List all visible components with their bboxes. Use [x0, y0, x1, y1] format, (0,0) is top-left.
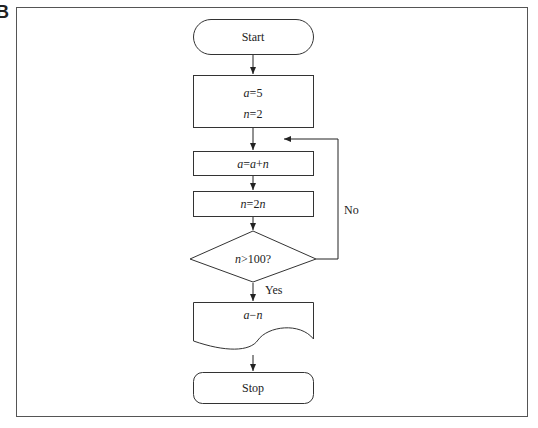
update-n-node: n=2n [194, 192, 314, 217]
svg-text:n=2n: n=2n [241, 197, 266, 211]
stop-label: Stop [242, 381, 264, 395]
start-label: Start [242, 30, 265, 44]
svg-text:a=a+n: a=a+n [237, 157, 269, 171]
start-node: Start [194, 20, 314, 55]
update-a-node: a=a+n [194, 152, 314, 176]
no-label: No [344, 203, 359, 217]
svg-text:a−n: a−n [244, 308, 263, 322]
svg-text:a=5: a=5 [244, 86, 263, 100]
svg-text:n>100?: n>100? [235, 252, 271, 266]
stop-node: Stop [194, 373, 314, 404]
yes-label: Yes [265, 283, 283, 297]
flowchart: Start a=5 n=2 No a=a+n n=2n [0, 0, 538, 428]
init-node: a=5 n=2 [194, 76, 314, 128]
svg-text:n=2: n=2 [244, 107, 263, 121]
decision-node: n>100? [190, 231, 316, 282]
output-node: a−n [194, 303, 314, 350]
